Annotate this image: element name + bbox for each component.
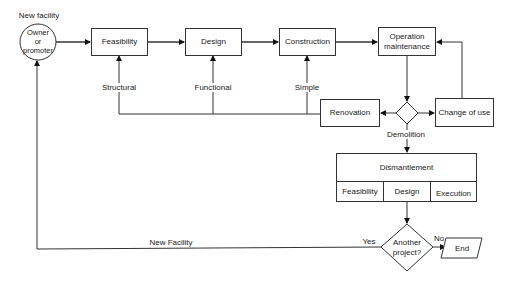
renovation-label: Renovation xyxy=(330,108,370,118)
design-label: Design xyxy=(201,37,226,47)
dismantlement-label: Dismantlement xyxy=(380,163,433,173)
owner-promoter-label: Owner or promoter xyxy=(20,28,56,55)
new-facility-loop-label: New Facility xyxy=(148,238,194,247)
change-of-use-label: Change of use xyxy=(438,108,490,118)
operation-maintenance-label: Operation maintenance xyxy=(384,32,430,52)
feasibility-box: Feasibility xyxy=(91,28,148,56)
structural-label: Structural xyxy=(96,83,142,92)
dismantlement-feasibility: Feasibility xyxy=(336,181,384,202)
another-project-label: Another project? xyxy=(387,238,427,258)
operation-maintenance-box: Operation maintenance xyxy=(378,27,436,56)
simple-label: Simple xyxy=(294,83,320,92)
construction-box: Construction xyxy=(279,28,336,56)
yes-label: Yes xyxy=(361,237,377,246)
renovation-box: Renovation xyxy=(320,99,380,127)
dismantlement-execution-label: Execution xyxy=(436,189,471,199)
dismantlement-design-label: Design xyxy=(395,187,420,197)
functional-label: Functional xyxy=(190,83,236,92)
new-facility-top-label: New facility xyxy=(8,11,70,20)
dismantlement-box: Dismantlement xyxy=(336,153,477,182)
decision-diamond xyxy=(396,102,418,124)
demolition-label: Demolition xyxy=(383,130,429,139)
change-of-use-box: Change of use xyxy=(435,98,494,127)
dismantlement-execution: Execution xyxy=(430,181,477,202)
no-label: No xyxy=(433,234,445,243)
construction-label: Construction xyxy=(285,37,330,47)
feasibility-label: Feasibility xyxy=(102,37,138,47)
dismantlement-feasibility-label: Feasibility xyxy=(342,187,378,197)
design-box: Design xyxy=(185,28,242,56)
dismantlement-design: Design xyxy=(383,181,431,202)
end-label: End xyxy=(447,244,477,253)
